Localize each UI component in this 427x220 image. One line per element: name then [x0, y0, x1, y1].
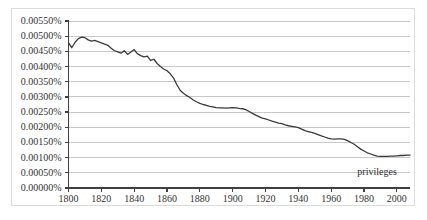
x-tick-label: 1980 [354, 194, 374, 204]
x-tick-label: 2000 [387, 194, 407, 204]
x-axis-tick-labels: 1800182018401860188019001920194019601980… [0, 0, 427, 220]
x-tick-label: 1860 [157, 194, 177, 204]
series-annotation-privileges: privileges [357, 167, 396, 177]
x-tick-label: 1900 [223, 194, 243, 204]
x-tick-label: 1880 [190, 194, 210, 204]
x-tick-label: 1960 [321, 194, 341, 204]
x-tick-label: 1820 [91, 194, 111, 204]
ngram-line-chart: 0.00550%0.00500%0.00450%0.00400%0.00350%… [0, 0, 427, 220]
x-tick-label: 1840 [124, 194, 144, 204]
x-tick-label: 1800 [59, 194, 79, 204]
x-tick-label: 1920 [256, 194, 276, 204]
x-tick-label: 1940 [288, 194, 308, 204]
